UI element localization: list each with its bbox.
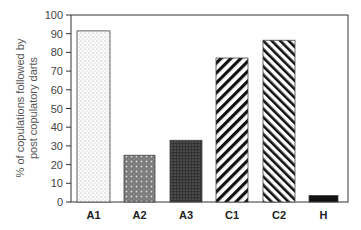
- bar-a1: [77, 31, 110, 202]
- y-axis-label-line2: post copulatory darts: [27, 56, 39, 159]
- y-tick-label: 20: [51, 159, 63, 171]
- x-axis-categories: A1A2A3C1C2H: [86, 209, 327, 221]
- x-category-label: C1: [225, 209, 239, 221]
- x-category-label: A3: [179, 209, 193, 221]
- y-tick-label: 80: [51, 46, 63, 58]
- y-tick-label: 50: [51, 103, 63, 115]
- y-tick-label: 0: [57, 196, 63, 208]
- bar-c1: [216, 58, 248, 202]
- x-category-label: A2: [132, 209, 146, 221]
- bar-chart: 0102030405060708090100 % of copulations …: [0, 0, 361, 230]
- y-axis-label: % of copulations followed by: [14, 38, 26, 177]
- x-category-label: C2: [272, 209, 286, 221]
- bar-h: [309, 195, 338, 202]
- x-category-label: H: [320, 209, 328, 221]
- y-tick-label: 90: [51, 28, 63, 40]
- y-tick-label: 70: [51, 65, 63, 77]
- bar-a3: [170, 140, 202, 202]
- x-category-label: A1: [86, 209, 100, 221]
- y-tick-label: 40: [51, 121, 63, 133]
- y-tick-label: 10: [51, 177, 63, 189]
- y-tick-label: 30: [51, 140, 63, 152]
- plot-frame: [71, 15, 348, 202]
- bar-a2: [124, 155, 155, 202]
- bars: [77, 31, 338, 202]
- y-tick-label: 60: [51, 84, 63, 96]
- y-axis: 0102030405060708090100: [45, 9, 71, 208]
- bar-c2: [263, 40, 295, 202]
- y-tick-label: 100: [45, 9, 63, 21]
